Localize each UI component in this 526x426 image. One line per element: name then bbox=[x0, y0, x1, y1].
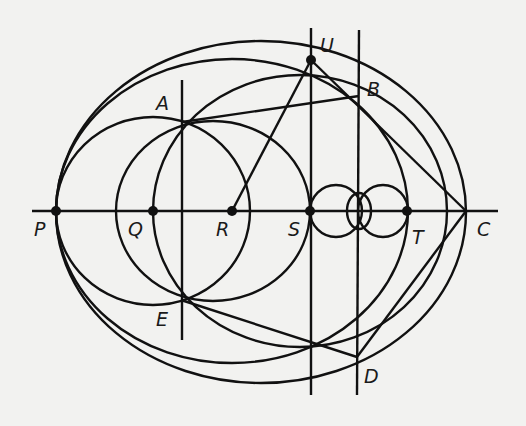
point-label-a: A bbox=[154, 92, 169, 114]
geometry-diagram: PQRSTCAEUBD bbox=[0, 0, 526, 426]
point-label-p: P bbox=[34, 218, 46, 240]
point-q-dot bbox=[148, 206, 158, 216]
segment-a-b bbox=[182, 96, 359, 122]
point-label-q: Q bbox=[128, 218, 143, 240]
point-label-t: T bbox=[412, 226, 425, 248]
point-s-dot bbox=[305, 206, 315, 216]
segment-e-d bbox=[181, 300, 357, 357]
point-label-c: C bbox=[477, 218, 491, 240]
point-label-r: R bbox=[216, 218, 229, 240]
point-label-d: D bbox=[364, 365, 379, 387]
point-u-dot bbox=[306, 55, 316, 65]
point-label-b: B bbox=[367, 78, 380, 100]
segment-r-u bbox=[232, 60, 311, 211]
point-r-dot bbox=[227, 206, 237, 216]
segment-u-c bbox=[311, 60, 466, 211]
point-label-s: S bbox=[288, 218, 300, 240]
construction-figure: PQRSTCAEUBD bbox=[0, 0, 526, 426]
point-label-u: U bbox=[320, 34, 334, 56]
point-t-dot bbox=[402, 206, 412, 216]
point-label-e: E bbox=[156, 308, 168, 330]
point-p-dot bbox=[51, 206, 61, 216]
